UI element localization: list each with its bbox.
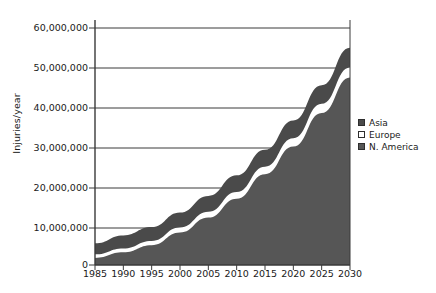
x-axis-tick-labels: 1985 1990 1995 2000 2005 2010 2015 2020 … [0, 268, 436, 288]
legend-item-asia[interactable]: Asia [358, 117, 436, 128]
legend-label-europe: Europe [369, 130, 401, 140]
legend-swatch-asia [358, 119, 365, 126]
area-series-group [95, 48, 350, 265]
legend-item-europe[interactable]: Europe [358, 129, 436, 140]
legend-item-n-america[interactable]: N. America [358, 141, 436, 152]
legend-label-n-america: N. America [369, 142, 419, 152]
legend-label-asia: Asia [369, 118, 388, 128]
legend-swatch-europe [358, 131, 365, 138]
x-tick-label: 2030 [330, 268, 370, 279]
chart-legend: Asia Europe N. America [358, 117, 436, 153]
stacked-area-chart: Injuries/year 60,000,000 50,000,000 40,0… [0, 0, 436, 293]
y-tick-marks [89, 28, 95, 265]
legend-swatch-n-america [358, 143, 365, 150]
